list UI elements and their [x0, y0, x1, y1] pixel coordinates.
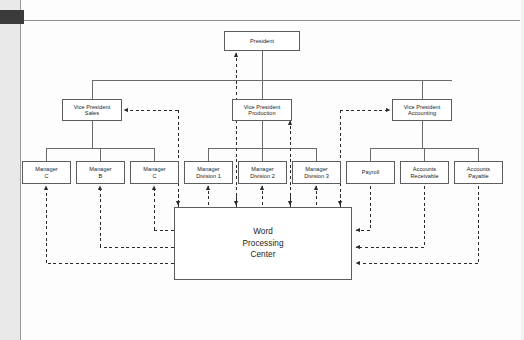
node-manager-a[interactable]: Manager C — [22, 161, 71, 184]
node-label: Manager B — [89, 166, 111, 179]
node-label: Vice President Sales — [74, 104, 111, 117]
node-label: Manager C — [143, 166, 165, 179]
node-label: Word Processing Center — [242, 226, 283, 262]
node-label: Accounts Receivable — [410, 166, 438, 179]
node-label: Manager C — [35, 166, 57, 179]
node-label: Manager Division 3 — [304, 166, 329, 179]
node-label: President — [250, 38, 274, 44]
node-vp-accounting[interactable]: Vice President Accounting — [392, 99, 452, 121]
node-vp-sales[interactable]: Vice President Sales — [62, 99, 122, 121]
node-label: Vice President Accounting — [404, 104, 441, 117]
node-label: Vice President Production — [244, 104, 281, 117]
node-label: Manager Division 1 — [196, 166, 221, 179]
node-manager-division-2[interactable]: Manager Division 2 — [238, 161, 287, 184]
node-payroll[interactable]: Payroll — [346, 161, 395, 184]
node-label: Accounts Payable — [467, 166, 490, 179]
node-manager-division-3[interactable]: Manager Division 3 — [292, 161, 341, 184]
node-vp-production[interactable]: Vice President Production — [232, 99, 292, 121]
node-label: Payroll — [362, 169, 379, 175]
scanned-page: President Vice President Sales Vice Pres… — [0, 0, 524, 340]
node-manager-division-1[interactable]: Manager Division 1 — [184, 161, 233, 184]
node-accounts-payable[interactable]: Accounts Payable — [454, 161, 503, 184]
org-chart: President Vice President Sales Vice Pres… — [0, 0, 524, 340]
node-label: Manager Division 2 — [250, 166, 275, 179]
node-president[interactable]: President — [224, 31, 300, 51]
node-manager-b[interactable]: Manager B — [76, 161, 125, 184]
node-word-processing-center[interactable]: Word Processing Center — [174, 207, 352, 280]
node-accounts-receivable[interactable]: Accounts Receivable — [400, 161, 449, 184]
node-manager-c[interactable]: Manager C — [130, 161, 179, 184]
